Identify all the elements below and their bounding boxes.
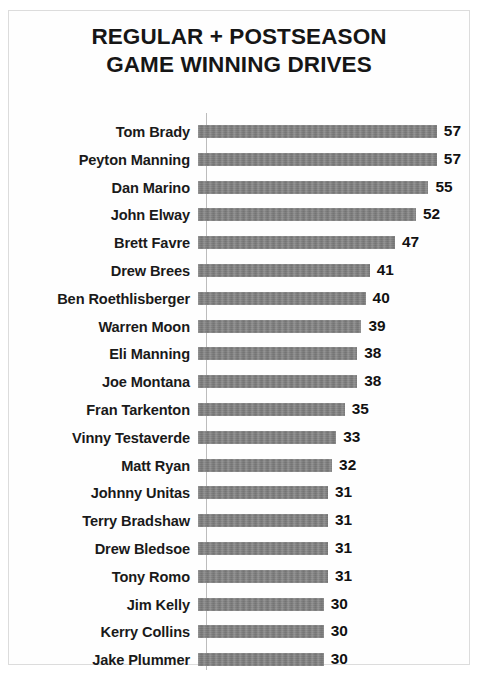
bar-row: Kerry Collins30 xyxy=(9,618,471,646)
bar xyxy=(198,292,366,305)
bar-value-label: 30 xyxy=(331,648,348,670)
bar-track: 32 xyxy=(198,452,471,480)
bar-track: 31 xyxy=(198,507,471,535)
bar-track: 38 xyxy=(198,368,471,396)
bar xyxy=(198,208,416,221)
bar xyxy=(198,347,357,360)
bar-row: Drew Bledsoe31 xyxy=(9,535,471,563)
bar-category-label: Tom Brady xyxy=(9,124,198,140)
bar-category-label: Johnny Unitas xyxy=(9,485,198,501)
bar-category-label: Matt Ryan xyxy=(9,458,198,474)
bar xyxy=(198,264,370,277)
bar-track: 31 xyxy=(198,535,471,563)
bar xyxy=(198,625,324,638)
bar-track: 41 xyxy=(198,257,471,285)
bar-row: Terry Bradshaw31 xyxy=(9,507,471,535)
bar xyxy=(198,375,357,388)
bar-track: 47 xyxy=(198,229,471,257)
bar-category-label: Fran Tarkenton xyxy=(9,402,198,418)
bar-track: 31 xyxy=(198,563,471,591)
plot-area: Tom Brady57Peyton Manning57Dan Marino55J… xyxy=(9,108,471,666)
chart-title: REGULAR + POSTSEASON GAME WINNING DRIVES xyxy=(9,23,469,79)
bar-value-label: 57 xyxy=(444,120,461,142)
bar-category-label: Joe Montana xyxy=(9,374,198,390)
bar xyxy=(198,153,437,166)
bar-value-label: 30 xyxy=(331,620,348,642)
bar-row: Drew Brees41 xyxy=(9,257,471,285)
bar-row: Joe Montana38 xyxy=(9,368,471,396)
bar-category-label: Dan Marino xyxy=(9,180,198,196)
bar-value-label: 40 xyxy=(373,287,390,309)
chart-container: REGULAR + POSTSEASON GAME WINNING DRIVES… xyxy=(9,11,469,664)
bar-row: Peyton Manning57 xyxy=(9,146,471,174)
bar-value-label: 38 xyxy=(364,370,381,392)
bar-category-label: Tony Romo xyxy=(9,569,198,585)
bar-value-label: 32 xyxy=(339,454,356,476)
bar-value-label: 55 xyxy=(435,176,452,198)
bar-value-label: 31 xyxy=(335,509,352,531)
bar-category-label: Warren Moon xyxy=(9,319,198,335)
bar xyxy=(198,320,361,333)
bar-category-label: Vinny Testaverde xyxy=(9,430,198,446)
bar xyxy=(198,431,336,444)
bar-value-label: 47 xyxy=(402,231,419,253)
bar-track: 31 xyxy=(198,479,471,507)
bar-category-label: Brett Favre xyxy=(9,235,198,251)
bar xyxy=(198,486,328,499)
bar xyxy=(198,403,345,416)
bar xyxy=(198,570,328,583)
bar-track: 40 xyxy=(198,285,471,313)
bar-category-label: John Elway xyxy=(9,207,198,223)
bar-track: 30 xyxy=(198,646,471,674)
bar xyxy=(198,125,437,138)
bar-row: John Elway52 xyxy=(9,201,471,229)
bar-row: Jake Plummer30 xyxy=(9,646,471,674)
bar-row: Tom Brady57 xyxy=(9,118,471,146)
bar-track: 55 xyxy=(198,174,471,202)
bar-row: Eli Manning38 xyxy=(9,340,471,368)
bar-row: Brett Favre47 xyxy=(9,229,471,257)
bar-value-label: 35 xyxy=(352,398,369,420)
bar-value-label: 57 xyxy=(444,148,461,170)
bar-track: 52 xyxy=(198,201,471,229)
bar-row: Johnny Unitas31 xyxy=(9,479,471,507)
bar-category-label: Drew Brees xyxy=(9,263,198,279)
bar-category-label: Terry Bradshaw xyxy=(9,513,198,529)
bar-row: Vinny Testaverde33 xyxy=(9,424,471,452)
bar xyxy=(198,236,395,249)
bar-category-label: Peyton Manning xyxy=(9,152,198,168)
bar-value-label: 31 xyxy=(335,565,352,587)
bar-value-label: 38 xyxy=(364,342,381,364)
bar-track: 57 xyxy=(198,118,471,146)
bar-value-label: 39 xyxy=(368,315,385,337)
bar-row: Jim Kelly30 xyxy=(9,591,471,619)
bar-row: Warren Moon39 xyxy=(9,313,471,341)
bar-track: 30 xyxy=(198,618,471,646)
bar-row: Tony Romo31 xyxy=(9,563,471,591)
bar-row: Ben Roethlisberger40 xyxy=(9,285,471,313)
bar-value-label: 31 xyxy=(335,537,352,559)
bar xyxy=(198,459,332,472)
bar-row: Dan Marino55 xyxy=(9,174,471,202)
bar xyxy=(198,181,428,194)
bar-row: Fran Tarkenton35 xyxy=(9,396,471,424)
bar-row: Matt Ryan32 xyxy=(9,452,471,480)
bar-category-label: Jake Plummer xyxy=(9,652,198,668)
chart-frame: REGULAR + POSTSEASON GAME WINNING DRIVES… xyxy=(8,10,470,665)
bar xyxy=(198,653,324,666)
bar-track: 33 xyxy=(198,424,471,452)
bar xyxy=(198,514,328,527)
bar-value-label: 33 xyxy=(343,426,360,448)
bar-value-label: 30 xyxy=(331,593,348,615)
bar-category-label: Ben Roethlisberger xyxy=(9,291,198,307)
bar-track: 30 xyxy=(198,591,471,619)
bar-track: 38 xyxy=(198,340,471,368)
bar-track: 35 xyxy=(198,396,471,424)
bar-value-label: 31 xyxy=(335,481,352,503)
bar-category-label: Kerry Collins xyxy=(9,624,198,640)
bar-track: 57 xyxy=(198,146,471,174)
bar xyxy=(198,598,324,611)
bar-value-label: 52 xyxy=(423,203,440,225)
bar-value-label: 41 xyxy=(377,259,394,281)
bar-category-label: Jim Kelly xyxy=(9,597,198,613)
